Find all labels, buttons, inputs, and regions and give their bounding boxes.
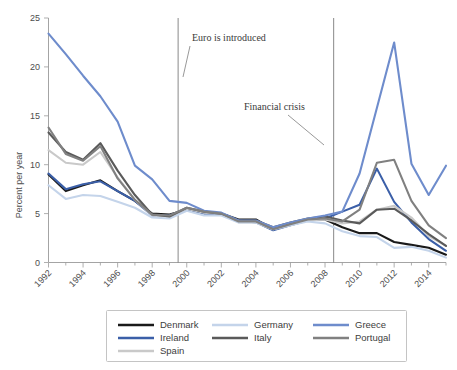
y-tick-label: 20 <box>30 62 40 72</box>
x-tick-label: 2004 <box>240 268 261 289</box>
line-chart: Percent per year 0510152025 199219941996… <box>0 0 457 370</box>
y-tick-label: 10 <box>30 160 40 170</box>
y-tick-label: 0 <box>35 258 40 268</box>
leader-line-euro-introduced <box>183 46 190 77</box>
legend-label-ireland: Ireland <box>160 332 189 343</box>
y-tick-label: 15 <box>30 111 40 121</box>
y-axis-title-text: Percent per year <box>14 152 24 219</box>
annotation-label-financial-crisis: Financial crisis <box>244 101 305 112</box>
x-tick-label: 2002 <box>205 268 226 289</box>
annotation-label-euro-introduced: Euro is introduced <box>192 32 266 43</box>
chart-container: Percent per year 0510152025 199219941996… <box>0 0 457 370</box>
legend-label-italy: Italy <box>254 332 272 343</box>
legend-label-greece: Greece <box>355 319 386 330</box>
x-tick-label: 2000 <box>170 268 191 289</box>
x-tick-label: 1994 <box>67 268 88 289</box>
chart-legend: DenmarkGermanyGreeceIrelandItalyPortugal… <box>107 311 407 362</box>
event-marker-lines <box>178 18 334 263</box>
y-tick-label: 5 <box>35 209 40 219</box>
x-tick-label: 2008 <box>309 268 330 289</box>
x-tick-label: 1996 <box>101 268 122 289</box>
y-tick-label: 25 <box>30 13 40 23</box>
x-axis-ticks: 1992199419961998200020022004200620082010… <box>32 263 446 290</box>
series-lines <box>49 34 447 258</box>
x-tick-label: 2014 <box>412 268 433 289</box>
y-axis-title: Percent per year <box>14 152 24 219</box>
legend-label-portugal: Portugal <box>355 332 390 343</box>
x-tick-label: 2006 <box>274 268 295 289</box>
legend-label-denmark: Denmark <box>160 319 199 330</box>
series-line-portugal <box>49 128 447 239</box>
x-tick-label: 2012 <box>378 268 399 289</box>
x-tick-label: 1992 <box>32 268 53 289</box>
x-tick-label: 2010 <box>343 268 364 289</box>
legend-label-germany: Germany <box>254 319 293 330</box>
chart-annotations: Euro is introducedFinancial crisis <box>183 32 324 145</box>
legend-label-spain: Spain <box>160 345 184 356</box>
x-tick-label: 1998 <box>136 268 157 289</box>
y-axis-ticks: 0510152025 <box>30 13 49 267</box>
leader-line-financial-crisis <box>288 115 324 145</box>
